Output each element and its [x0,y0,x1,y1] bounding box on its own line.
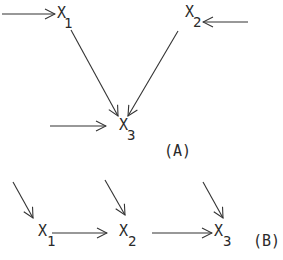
edge-b-external-to-x3 [203,182,223,218]
node-b-x3: X 3 [214,222,231,249]
diagram-b: X 1 X 2 X 3 (B) [13,180,280,250]
node-symbol: X [38,222,47,240]
node-subscript: 2 [193,14,201,30]
node-subscript: 2 [128,233,136,249]
node-subscript: 1 [47,233,55,249]
node-subscript: 3 [127,127,135,143]
node-symbol: X [119,222,128,240]
node-a-x1: X 1 [57,4,72,31]
node-b-x1: X 1 [38,222,55,249]
diagram-a: X 1 X 2 X 3 (A) [2,3,248,160]
node-subscript: 3 [223,233,231,249]
node-b-x2: X 2 [119,222,136,249]
node-a-x2: X 2 [185,3,201,30]
edge-a-x1-to-x3 [71,30,118,116]
edge-a-x2-to-x3 [128,31,178,116]
node-subscript: 1 [64,15,72,31]
node-symbol: X [214,222,223,240]
edge-b-external-to-x2 [105,180,125,215]
node-a-x3: X 3 [119,116,135,143]
diagram-label-a: (A) [164,142,191,160]
causal-diagrams: X 1 X 2 X 3 (A) X 1 X 2 X 3 (B) [0,0,283,260]
diagram-label-b: (B) [253,232,280,250]
edge-b-external-to-x1 [13,182,33,218]
